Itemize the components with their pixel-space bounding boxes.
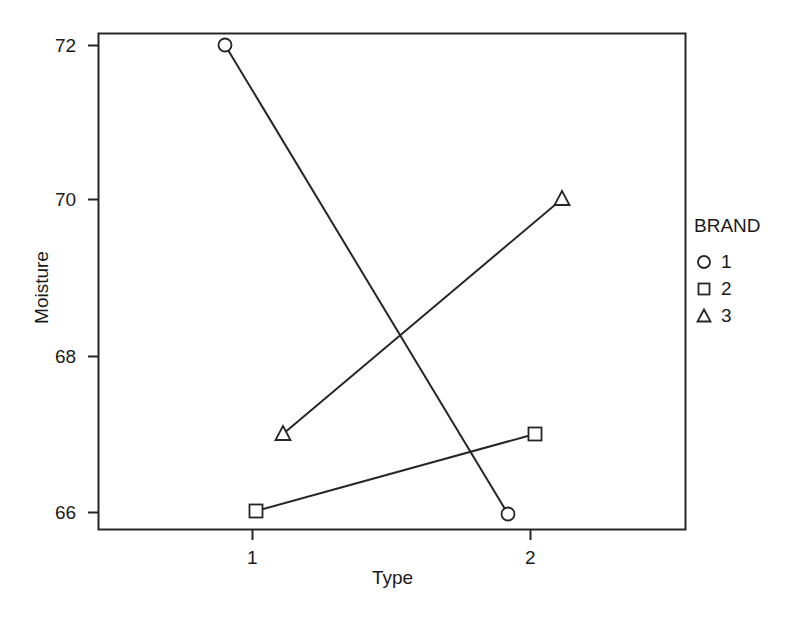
x-tick-label-2: 2 bbox=[525, 548, 536, 567]
series-2-marker-square bbox=[529, 428, 542, 441]
legend-item-brand-3: 3 bbox=[694, 302, 798, 329]
series-2-marker-square bbox=[250, 505, 263, 518]
square-icon bbox=[694, 279, 714, 299]
series-1-marker-circle bbox=[502, 508, 515, 521]
series-1-marker-circle bbox=[219, 39, 232, 52]
legend-label-1: 1 bbox=[721, 252, 732, 271]
series-brand-1 bbox=[219, 39, 515, 521]
legend-item-brand-2: 2 bbox=[694, 275, 798, 302]
x-axis-ticks bbox=[253, 530, 531, 540]
legend: BRAND 1 2 3 bbox=[694, 216, 798, 329]
series-3-line bbox=[283, 199, 562, 434]
y-tick-label-70: 70 bbox=[55, 190, 76, 209]
circle-icon bbox=[694, 252, 714, 272]
legend-title: BRAND bbox=[694, 216, 798, 235]
legend-label-2: 2 bbox=[721, 279, 732, 298]
interaction-plot-figure: 72 70 68 66 1 2 Type Moisture BRAND 1 2 … bbox=[0, 0, 804, 623]
y-tick-label-68: 68 bbox=[55, 347, 76, 366]
series-brand-3 bbox=[276, 191, 570, 440]
x-axis-title: Type bbox=[372, 568, 413, 587]
y-axis-ticks bbox=[88, 46, 98, 513]
y-tick-label-66: 66 bbox=[55, 503, 76, 522]
series-3-marker-triangle bbox=[276, 426, 291, 440]
plot-canvas bbox=[0, 0, 804, 623]
x-tick-label-1: 1 bbox=[247, 548, 258, 567]
series-2-line bbox=[256, 434, 535, 511]
legend-label-3: 3 bbox=[721, 306, 732, 325]
y-tick-label-72: 72 bbox=[55, 36, 76, 55]
series-brand-2 bbox=[250, 428, 542, 518]
series-3-marker-triangle bbox=[555, 191, 570, 205]
y-axis-title: Moisture bbox=[32, 246, 51, 330]
legend-item-brand-1: 1 bbox=[694, 248, 798, 275]
plot-frame bbox=[99, 34, 686, 530]
triangle-icon bbox=[694, 306, 714, 326]
